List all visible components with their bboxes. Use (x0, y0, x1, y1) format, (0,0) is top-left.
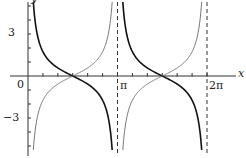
y-axis-label: y (31, 0, 37, 4)
origin-label: 0 (17, 79, 24, 90)
y-tick-label-neg3: −3 (3, 112, 19, 123)
x-tick-label-pi: π (120, 80, 127, 91)
x-tick-label-2pi: 2π (209, 80, 223, 91)
x-axis-label: x (238, 68, 244, 79)
y-tick-label-3: 3 (8, 27, 15, 38)
chart: 3 −3 0 π 2π x y (0, 0, 246, 158)
